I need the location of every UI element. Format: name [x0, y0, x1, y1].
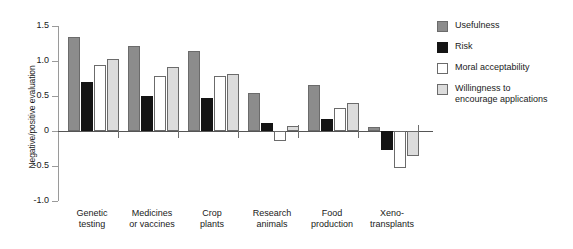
- y-tick: 1.0: [52, 61, 58, 62]
- y-tick-label: 0: [44, 125, 49, 135]
- y-tick-label: 1.5: [36, 20, 49, 30]
- bar: [201, 98, 213, 131]
- bar: [274, 131, 286, 141]
- legend-item: Moral acceptability: [437, 62, 573, 74]
- legend-swatch-icon: [437, 21, 448, 32]
- y-tick-label: 1.0: [36, 55, 49, 65]
- group-separator-tick: [298, 125, 299, 138]
- y-tick-label: -0.5: [33, 160, 49, 170]
- y-tick: 1.5: [52, 26, 58, 27]
- bar-chart-figure: Negative/positive evaluation 1.51.00.50-…: [0, 0, 573, 249]
- bar: [308, 85, 320, 131]
- legend-label: Moral acceptability: [455, 62, 530, 73]
- legend-item: Usefulness: [437, 20, 573, 32]
- bar: [154, 76, 166, 131]
- bar: [381, 131, 393, 150]
- y-tick: 0: [52, 131, 58, 132]
- legend-label: Usefulness: [455, 20, 500, 31]
- legend-swatch-icon: [437, 84, 448, 95]
- group-separator-tick: [118, 125, 119, 138]
- bar-group: [362, 26, 422, 201]
- bar-group: [302, 26, 362, 201]
- bar: [141, 96, 153, 131]
- bar-group: [182, 26, 242, 201]
- bar: [334, 108, 346, 131]
- plot-area: 1.51.00.50-0.5-1.0 Genetic testingMedici…: [58, 26, 433, 201]
- legend-swatch-icon: [437, 42, 448, 53]
- group-separator-tick: [238, 125, 239, 138]
- legend-label: Risk: [455, 41, 473, 52]
- bar: [227, 74, 239, 131]
- bar: [394, 131, 406, 168]
- y-tick: -1.0: [52, 201, 58, 202]
- bar: [261, 123, 273, 131]
- bar-group: [62, 26, 122, 201]
- y-axis-title: Negative/positive evaluation: [27, 27, 37, 207]
- group-separator-tick: [418, 125, 419, 138]
- bar: [368, 127, 380, 131]
- legend-swatch-icon: [437, 63, 448, 74]
- x-axis-label: Xeno- transplants: [356, 208, 428, 230]
- legend-label: Willingness to encourage applications: [455, 83, 548, 104]
- bar: [214, 76, 226, 131]
- bar: [248, 93, 260, 131]
- chart-legend: UsefulnessRiskMoral acceptabilityWilling…: [437, 20, 573, 113]
- bar-group: [242, 26, 302, 201]
- group-separator-tick: [178, 125, 179, 138]
- bar: [128, 46, 140, 131]
- bar-group: [122, 26, 182, 201]
- bar: [94, 65, 106, 131]
- legend-item: Risk: [437, 41, 573, 53]
- bar: [68, 37, 80, 131]
- legend-item: Willingness to encourage applications: [437, 83, 573, 104]
- y-axis-line: [58, 26, 59, 201]
- bar: [188, 51, 200, 131]
- y-tick-label: 0.5: [36, 90, 49, 100]
- bar: [167, 67, 179, 131]
- bar: [107, 59, 119, 131]
- y-tick-label: -1.0: [33, 195, 49, 205]
- bar: [81, 82, 93, 131]
- y-tick: -0.5: [52, 166, 58, 167]
- group-separator-tick: [358, 125, 359, 138]
- bar: [321, 119, 333, 131]
- y-tick: 0.5: [52, 96, 58, 97]
